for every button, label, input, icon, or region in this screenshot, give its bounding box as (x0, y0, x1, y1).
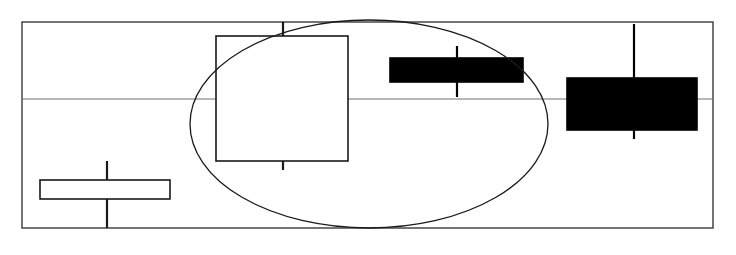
candlestick-chart (0, 0, 736, 255)
chart-canvas (0, 0, 736, 255)
candle-body (40, 180, 170, 199)
candle-body (567, 78, 697, 130)
candle-2[interactable] (216, 22, 348, 170)
candle-body (390, 58, 523, 82)
